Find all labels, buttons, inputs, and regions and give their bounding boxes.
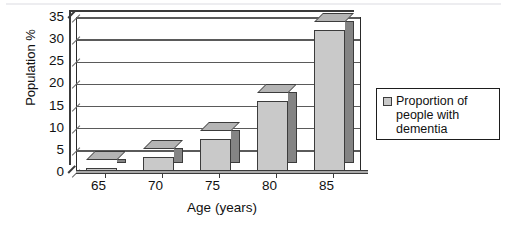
legend-swatch-icon — [383, 97, 392, 106]
y-axis-tick-label: 10 — [38, 121, 64, 135]
bar-side-face — [117, 159, 126, 163]
bar-column-80 — [257, 92, 288, 172]
bar-column-75 — [200, 130, 231, 172]
y-axis-tick-label: 0 — [38, 165, 64, 179]
plot-area — [76, 17, 361, 172]
chart-floor — [76, 170, 368, 174]
bar-side-face — [288, 92, 297, 163]
plot-depth-wall-top — [69, 10, 354, 12]
bar-front-face — [314, 30, 345, 172]
y-axis-tick-label: 20 — [38, 77, 64, 91]
bar-front-face — [200, 139, 231, 172]
plot-depth-connector — [67, 165, 75, 173]
x-axis-tick-label: 85 — [304, 178, 350, 193]
plot-depth-wall-left — [69, 10, 71, 165]
x-axis-tick-labels: 6570758085 — [76, 178, 368, 198]
y-axis-tick-labels: 05101520253035 — [34, 0, 64, 226]
x-axis-tick-label: 80 — [247, 178, 293, 193]
x-axis-title: Age (years) — [76, 200, 368, 215]
y-axis-tick-label: 35 — [38, 10, 64, 24]
bar-chart-figure: Population % 05101520253035 6570758085 A… — [0, 0, 507, 226]
x-axis-tick-label: 75 — [190, 178, 236, 193]
top-rule-divider — [6, 3, 501, 5]
bar-side-face — [174, 148, 183, 164]
bar-column-85 — [314, 21, 345, 172]
legend-label: Proportion of people with dementia — [396, 94, 468, 136]
y-axis-tick-label: 30 — [38, 32, 64, 46]
y-axis-tick-label: 25 — [38, 55, 64, 69]
x-axis-tick-label: 70 — [133, 178, 179, 193]
bar-front-face — [257, 101, 288, 172]
bar-column-70 — [143, 148, 174, 173]
chart-legend: Proportion of people with dementia — [376, 88, 500, 140]
x-axis-tick-label: 65 — [76, 178, 122, 193]
bar-side-face — [345, 21, 354, 163]
bar-side-face — [231, 130, 240, 163]
y-axis-tick-label: 5 — [38, 143, 64, 157]
y-axis-tick-label: 15 — [38, 99, 64, 113]
